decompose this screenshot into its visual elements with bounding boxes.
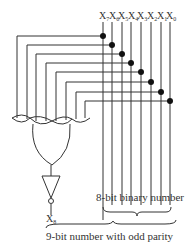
odd-parity-generator-diagram: X7 X6 X5 X4 X3 X2 X1 X0 X8 8-bit binary … xyxy=(0,0,195,245)
label-x3: X3 xyxy=(137,10,147,22)
input-labels: X7 X6 X5 X4 X3 X2 X1 X0 xyxy=(99,10,176,22)
label-x5: X5 xyxy=(118,10,128,22)
label-x7: X7 xyxy=(99,10,109,22)
label-8bit: 8-bit binary number xyxy=(96,191,184,203)
label-x8: X8 xyxy=(46,213,56,225)
label-x0: X0 xyxy=(166,10,176,22)
brace-9bit xyxy=(46,220,176,228)
label-x2: X2 xyxy=(147,10,157,22)
tap-wires xyxy=(17,36,170,121)
brace-8bit xyxy=(103,207,171,216)
xor-gate xyxy=(12,115,90,165)
not-gate xyxy=(42,176,60,204)
circuit-svg: X7 X6 X5 X4 X3 X2 X1 X0 X8 8-bit binary … xyxy=(0,0,195,245)
label-9bit: 9-bit number with odd parity xyxy=(46,230,174,242)
junction-dots xyxy=(100,33,173,104)
